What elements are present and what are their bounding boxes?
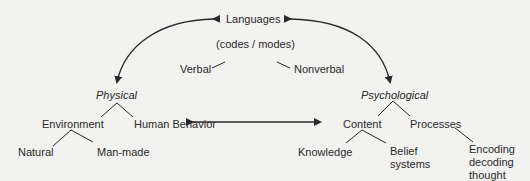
node-natural: Natural xyxy=(18,146,53,158)
node-knowledge: Knowledge xyxy=(298,146,352,158)
node-processes: Processes xyxy=(410,118,461,130)
node-verbal: Verbal xyxy=(180,63,211,75)
connector-lines xyxy=(0,0,530,181)
node-man-made: Man-made xyxy=(97,146,150,158)
node-languages: Languages xyxy=(226,13,280,25)
node-belief-systems: Belief systems xyxy=(390,145,435,171)
node-encoding-decoding-thought: Encoding decoding thought xyxy=(469,143,519,181)
node-human-behavior: Human Behavior xyxy=(134,118,216,130)
node-psychological: Psychological xyxy=(361,89,428,101)
node-content: Content xyxy=(343,118,382,130)
node-nonverbal: Nonverbal xyxy=(294,63,344,75)
diagram-canvas: Languages (codes / modes) Verbal Nonverb… xyxy=(0,0,530,181)
node-environment: Environment xyxy=(42,118,104,130)
node-physical: Physical xyxy=(96,89,137,101)
node-codes-modes: (codes / modes) xyxy=(216,38,295,50)
